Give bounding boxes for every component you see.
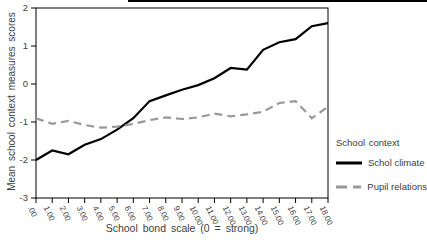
series-line-schol-climate [36, 23, 328, 160]
x-axis-title: School bond scale (0 = strong) [36, 222, 328, 234]
solid-line-swatch-icon [336, 160, 362, 166]
legend-entry-schol-climate: Schol climate [336, 157, 427, 168]
y-axis-title: Mean school context measures scores [6, 2, 17, 202]
legend-entry-pupil-relations: Pupil relations [336, 181, 427, 192]
legend-label: Pupil relations [367, 181, 427, 192]
series-line-pupil-relations [36, 101, 328, 128]
dashed-line-swatch-icon [336, 184, 361, 190]
legend-label: Schol climate [368, 157, 425, 168]
legend: School context Schol climate Pupil relat… [336, 137, 427, 192]
chart-figure: 210-1-2-3 .001.002.003.004.005.006.007.0… [0, 0, 427, 242]
legend-title: School context [336, 137, 427, 148]
